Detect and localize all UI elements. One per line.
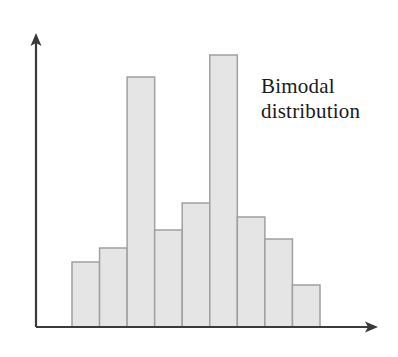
histogram-bar: [292, 285, 320, 327]
annotation-line-1: Bimodal: [261, 74, 360, 99]
histogram-bar: [72, 262, 100, 327]
chart-figure: Bimodal distribution: [0, 0, 398, 357]
histogram-bar: [210, 55, 238, 327]
histogram-bar: [237, 217, 265, 327]
histogram-bar: [100, 248, 128, 327]
histogram-bar: [127, 77, 155, 327]
bimodal-histogram-chart: [0, 0, 398, 357]
histogram-bar: [182, 203, 210, 327]
histogram-bar: [155, 230, 183, 327]
histogram-bar: [265, 239, 293, 327]
annotation-bimodal-distribution: Bimodal distribution: [261, 74, 360, 124]
annotation-line-2: distribution: [261, 99, 360, 124]
